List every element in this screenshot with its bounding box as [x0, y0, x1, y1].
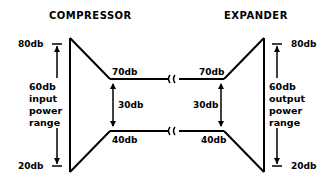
compressor-top-level: 80db: [18, 40, 43, 49]
compressor-top-slope: [70, 38, 110, 79]
top-break-mark: [169, 75, 176, 83]
compressor-out-bottom-level: 40db: [112, 136, 137, 145]
expander-top-slope: [224, 38, 264, 79]
compressor-bottom-level: 20db: [18, 162, 43, 171]
expander-title: EXPANDER: [224, 11, 288, 21]
expander-in-bottom-level: 40db: [201, 136, 226, 145]
expander-in-range: 30db: [193, 101, 218, 110]
expander-in-top-level: 70db: [199, 68, 224, 77]
expander-bottom-level: 20db: [291, 162, 316, 171]
compressor-title: COMPRESSOR: [49, 11, 132, 21]
compressor-out-range: 30db: [118, 101, 143, 110]
compressor-bottom-slope: [70, 131, 110, 172]
expander-top-level: 80db: [291, 40, 316, 49]
bottom-break-mark: [169, 127, 176, 135]
expander-bottom-slope: [224, 131, 264, 172]
compressor-out-top-level: 70db: [112, 68, 137, 77]
compressor-range-label: 60db input power range: [29, 81, 62, 129]
expander-range-label: 60db output power range: [269, 81, 305, 129]
